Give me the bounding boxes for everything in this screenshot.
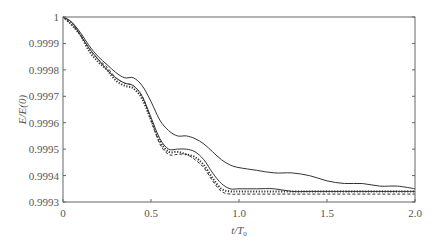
- y-tick-label: 0.9998: [29, 64, 60, 76]
- plot-frame: [63, 17, 415, 202]
- y-tick-label: 0.9993: [29, 196, 60, 208]
- series-layer: [63, 17, 415, 194]
- x-tick-label: 1.0: [232, 207, 246, 219]
- y-axis-title: E/E(0): [16, 95, 29, 126]
- x-tick-label: 0: [60, 207, 66, 219]
- series-line-solid-upper: [63, 17, 415, 189]
- y-tick-label: 0.9995: [29, 143, 60, 155]
- y-tick-label: 0.9997: [29, 90, 60, 102]
- series-line-solid-lower: [63, 17, 415, 192]
- series-line-dotted-markers: [63, 17, 415, 192]
- y-tick-label: 1: [54, 11, 60, 23]
- x-axis-title-subscript: 0: [243, 230, 247, 238]
- x-tick-label: 0.5: [144, 207, 158, 219]
- y-tick-label: 0.9996: [29, 117, 60, 129]
- energy-ratio-chart: 00.51.01.52.0 0.99930.99940.99950.99960.…: [0, 0, 442, 246]
- x-tick-label: 1.5: [320, 207, 334, 219]
- y-tick-label: 0.9999: [29, 37, 60, 49]
- y-axis: 0.99930.99940.99950.99960.99970.99980.99…: [29, 11, 415, 208]
- x-axis-title: t/T0: [231, 224, 247, 238]
- x-axis-title-main: t/T: [231, 224, 244, 236]
- y-tick-label: 0.9994: [29, 170, 60, 182]
- x-tick-label: 2.0: [408, 207, 422, 219]
